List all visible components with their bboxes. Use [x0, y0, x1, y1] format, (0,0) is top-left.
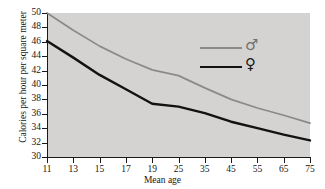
y-tick	[42, 42, 47, 43]
y-axis-label: Calories per hour per square meter	[18, 0, 28, 157]
x-tick-label: 45	[218, 164, 244, 174]
x-tick-label: 75	[297, 164, 323, 174]
series-line-female	[47, 41, 310, 140]
legend-item-male: ♂	[200, 40, 266, 56]
legend-item-female: ♀	[200, 59, 266, 75]
x-tick	[179, 158, 180, 163]
x-tick	[152, 158, 153, 163]
x-tick-label: 55	[244, 164, 270, 174]
legend-swatch-male	[200, 47, 242, 49]
y-tick	[42, 85, 47, 86]
x-tick-label: 11	[34, 164, 60, 174]
x-tick	[126, 158, 127, 163]
x-tick	[310, 158, 311, 163]
x-tick	[205, 158, 206, 163]
x-tick	[257, 158, 258, 163]
y-tick	[42, 128, 47, 129]
venus-icon: ♀	[245, 56, 256, 72]
x-tick	[284, 158, 285, 163]
mars-icon: ♂	[245, 37, 258, 53]
chart-figure: 5048464442403836343230 11131517192535455…	[0, 0, 325, 189]
y-tick	[42, 114, 47, 115]
series-lines	[0, 0, 325, 189]
x-tick-label: 25	[166, 164, 192, 174]
y-tick	[42, 99, 47, 100]
x-tick-label: 17	[113, 164, 139, 174]
y-tick	[42, 56, 47, 57]
y-tick	[42, 13, 47, 14]
x-tick-label: 35	[192, 164, 218, 174]
x-tick	[73, 158, 74, 163]
x-tick-label: 65	[271, 164, 297, 174]
x-tick	[100, 158, 101, 163]
x-tick	[231, 158, 232, 163]
y-tick	[42, 143, 47, 144]
x-tick-label: 13	[60, 164, 86, 174]
x-tick-label: 15	[87, 164, 113, 174]
y-tick	[42, 27, 47, 28]
x-tick	[47, 158, 48, 163]
legend-swatch-female	[200, 66, 242, 68]
y-tick	[42, 71, 47, 72]
x-axis-label: Mean age	[0, 175, 325, 185]
legend: ♂♀	[200, 40, 266, 78]
x-tick-label: 19	[139, 164, 165, 174]
